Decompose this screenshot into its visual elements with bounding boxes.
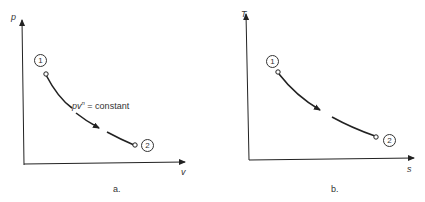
state-point-1 bbox=[44, 72, 48, 76]
state-point-2 bbox=[374, 135, 378, 139]
state-label-2: 2 bbox=[141, 139, 154, 152]
state-label-1: 1 bbox=[266, 55, 279, 68]
v-axis bbox=[24, 162, 185, 164]
process-equation: pvn = constant bbox=[72, 100, 129, 111]
caption-a: a. bbox=[113, 184, 121, 194]
state-point-2 bbox=[133, 143, 137, 147]
s-axis bbox=[249, 158, 414, 160]
equation-rest: = constant bbox=[85, 101, 129, 111]
s-axis-label: s bbox=[407, 164, 412, 174]
process-curve-a-part1 bbox=[46, 75, 72, 108]
caption-b: b. bbox=[331, 184, 339, 194]
process-curve-a-part2 bbox=[76, 113, 99, 128]
p-axis bbox=[22, 20, 24, 165]
process-curve-b-part1 bbox=[279, 74, 320, 110]
pv-diagram bbox=[22, 20, 185, 165]
t-axis bbox=[246, 14, 249, 160]
diagrams-canvas bbox=[0, 0, 425, 202]
state-label-1: 1 bbox=[34, 54, 47, 67]
state-label-2: 2 bbox=[383, 134, 396, 147]
process-curve-a-part3 bbox=[107, 132, 134, 145]
t-axis-label: T bbox=[241, 9, 247, 19]
state-point-1 bbox=[276, 70, 280, 74]
p-axis-label: p bbox=[11, 12, 16, 22]
equation-base: pv bbox=[72, 101, 82, 111]
v-axis-label: v bbox=[181, 167, 186, 177]
process-curve-b-part2 bbox=[332, 117, 375, 136]
